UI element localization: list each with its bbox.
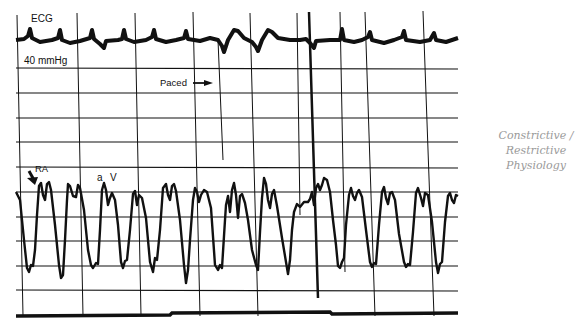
ecg-label: ECG: [31, 14, 53, 24]
a-wave-label: a: [97, 173, 103, 183]
vertical-grid: [17, 11, 434, 316]
annotation-line-3: Physiology: [490, 158, 582, 173]
annotation-line-2: Restrictive: [490, 143, 582, 158]
ra-label: RA: [35, 164, 48, 174]
paced-label: Paced: [160, 78, 187, 88]
handwritten-annotation: Constrictive / Restrictive Physiology: [490, 128, 582, 173]
annotation-line-1: Constrictive /: [490, 128, 582, 143]
right-arrow-icon: [193, 80, 213, 86]
scale-label: 40 mmHg: [24, 56, 67, 66]
v-wave-label: V: [110, 173, 117, 183]
baseline: [16, 312, 458, 316]
pacing-spike: [309, 12, 318, 298]
ecg-trace: [16, 29, 458, 52]
